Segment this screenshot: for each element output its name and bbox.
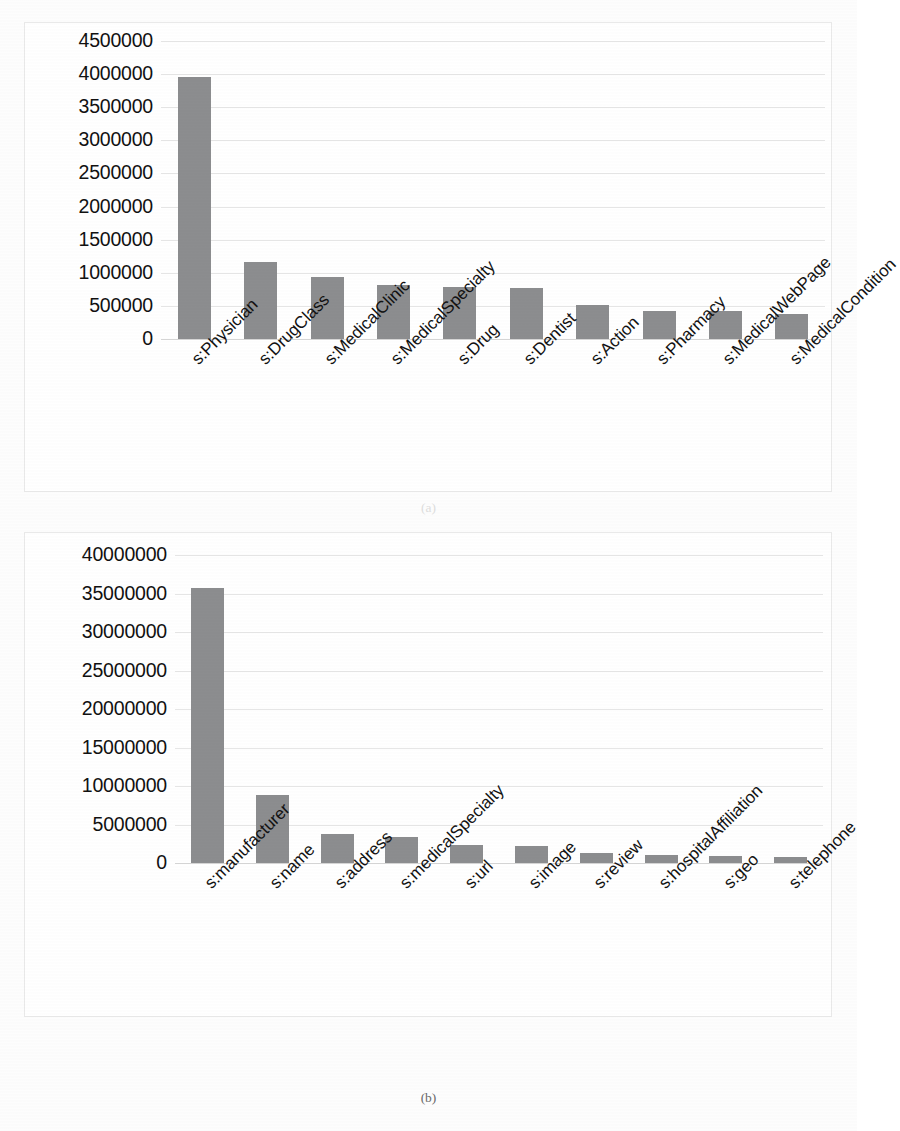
bar [576, 305, 609, 339]
subfigure-caption-b: (b) [0, 1090, 857, 1106]
y-axis-tick-label: 10000000 [82, 776, 167, 796]
y-axis-tick-label: 0 [142, 329, 153, 349]
y-axis-labels-b: 4000000035000000300000002500000020000000… [25, 533, 175, 865]
chart-panel-b: 4000000035000000300000002500000020000000… [24, 532, 832, 1017]
y-axis-tick-label: 15000000 [82, 738, 167, 758]
bars-a [161, 41, 825, 339]
bar [321, 834, 354, 863]
y-axis-tick-label: 1500000 [78, 230, 153, 250]
y-axis-tick-label: 500000 [89, 296, 153, 316]
y-axis-tick-label: 2500000 [78, 164, 153, 184]
y-axis-tick-label: 20000000 [82, 699, 167, 719]
plot-area-b: 4000000035000000300000002500000020000000… [25, 533, 831, 1016]
gridline [175, 863, 823, 864]
plot-area-a: 4500000400000035000003000000250000020000… [25, 23, 831, 491]
y-axis-tick-label: 25000000 [82, 661, 167, 681]
chart-panel-a: 4500000400000035000003000000250000020000… [24, 22, 832, 492]
y-axis-tick-label: 4500000 [78, 31, 153, 51]
y-axis-tick-label: 3500000 [78, 97, 153, 117]
bar [510, 288, 543, 339]
bar [191, 588, 224, 863]
bar [178, 77, 211, 339]
y-axis-tick-label: 30000000 [82, 622, 167, 642]
y-axis-tick-label: 1000000 [78, 263, 153, 283]
y-axis-tick-label: 3000000 [78, 131, 153, 151]
y-axis-tick-label: 40000000 [82, 545, 167, 565]
subfigure-caption-a: (a) [0, 500, 857, 516]
y-axis-tick-label: 2000000 [78, 197, 153, 217]
y-axis-tick-label: 5000000 [92, 815, 167, 835]
y-axis-labels-a: 4500000400000035000003000000250000020000… [25, 23, 161, 341]
bar [643, 311, 676, 339]
y-axis-tick-label: 4000000 [78, 64, 153, 84]
y-axis-tick-label: 0 [156, 853, 167, 873]
y-axis-tick-label: 35000000 [82, 584, 167, 604]
